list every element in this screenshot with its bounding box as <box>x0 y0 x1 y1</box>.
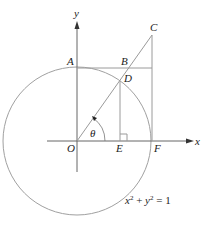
y-axis-arrow-icon <box>75 21 80 29</box>
point-label-D: D <box>123 72 132 84</box>
right-angle-mark <box>120 134 127 141</box>
point-label-C: C <box>150 21 158 33</box>
point-label-O: O <box>67 142 75 154</box>
point-label-A: A <box>66 55 74 67</box>
point-label-B: B <box>121 55 128 67</box>
point-label-E: E <box>115 142 123 154</box>
circle-equation: x2 + y2 = 1 <box>124 194 171 206</box>
line-OC <box>77 35 152 141</box>
angle-label-theta: θ <box>90 127 96 139</box>
point-label-F: F <box>153 142 161 154</box>
x-axis-arrow-icon <box>186 139 194 144</box>
axis-label-y: y <box>73 7 79 19</box>
axis-label-x: x <box>194 135 200 147</box>
unit-circle-diagram: y x C A B D O E F θ x2 + y2 = 1 <box>0 0 207 225</box>
